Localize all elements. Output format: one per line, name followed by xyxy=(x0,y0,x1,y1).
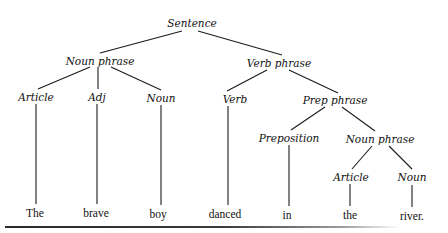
leaf-word-w5: in xyxy=(283,209,292,221)
tree-edge-np2-n2 xyxy=(389,146,412,169)
node-v: Verb xyxy=(223,93,248,105)
node-prep: Preposition xyxy=(258,132,320,144)
node-pp: Prep phrase xyxy=(302,94,368,106)
node-s: Sentence xyxy=(167,17,216,29)
tree-edge-pp-np2 xyxy=(342,107,375,131)
node-n1: Noun xyxy=(145,92,175,104)
leaf-word-w1: The xyxy=(26,207,44,219)
node-np2: Noun phrase xyxy=(345,133,415,145)
tree-nodes: SentenceNoun phraseVerb phraseArticleAdj… xyxy=(17,17,427,222)
tree-edge-vp-pp xyxy=(289,70,338,93)
node-n2: Noun xyxy=(396,171,426,183)
leaf-word-w4: danced xyxy=(209,208,242,220)
tree-edge-vp-v xyxy=(227,70,267,91)
tree-edge-np2-art2 xyxy=(352,146,372,169)
leaf-word-w3: boy xyxy=(149,208,167,221)
node-art1: Article xyxy=(17,91,54,103)
tree-edge-s-np1 xyxy=(100,31,182,53)
node-np1: Noun phrase xyxy=(65,55,135,67)
tree-edge-s-vp xyxy=(198,31,282,55)
node-vp: Verb phrase xyxy=(247,57,311,69)
parse-tree-diagram: SentenceNoun phraseVerb phraseArticleAdj… xyxy=(0,0,448,233)
leaf-word-w6: the xyxy=(343,209,357,221)
bottom-rule xyxy=(5,226,400,228)
leaf-word-w2: brave xyxy=(83,207,109,219)
node-art2: Article xyxy=(332,171,369,183)
leaf-word-w7: river. xyxy=(400,210,424,222)
tree-edge-np1-art1 xyxy=(38,67,90,89)
tree-edge-pp-prep xyxy=(291,107,325,130)
tree-edge-np1-n1 xyxy=(111,67,161,90)
node-adj: Adj xyxy=(87,91,106,103)
